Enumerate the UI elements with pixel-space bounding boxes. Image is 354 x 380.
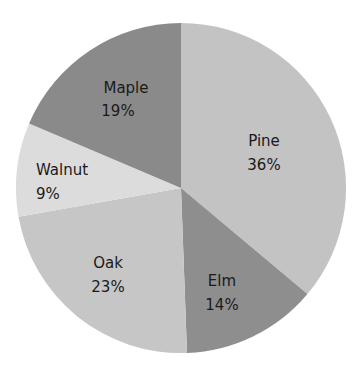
label-pine-name: Pine	[248, 132, 280, 150]
label-walnut-pct: 9%	[36, 185, 60, 203]
label-pine-pct: 36%	[247, 156, 280, 174]
label-oak-name: Oak	[93, 254, 123, 272]
label-walnut-name: Walnut	[36, 161, 88, 179]
label-maple-name: Maple	[103, 79, 148, 97]
pie-chart: Maple 19% Pine 36% Walnut 9% Oak 23% Elm…	[0, 0, 354, 380]
label-oak-pct: 23%	[91, 278, 124, 296]
label-elm-pct: 14%	[205, 296, 238, 314]
label-maple-pct: 19%	[101, 102, 134, 120]
label-elm-name: Elm	[208, 272, 236, 290]
